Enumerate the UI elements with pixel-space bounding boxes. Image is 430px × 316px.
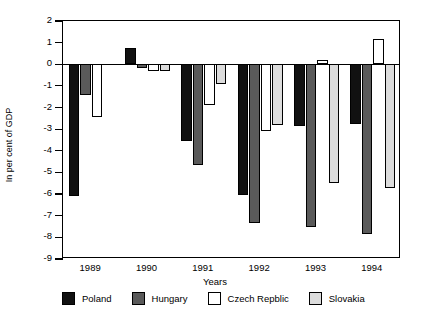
bar-poland-1993 (294, 64, 305, 126)
y-axis-tick (55, 107, 63, 108)
y-axis-tick-label: -7 (26, 210, 52, 220)
bar-hungary-1990 (137, 64, 148, 67)
y-axis-tick-label: -8 (26, 231, 52, 241)
legend-item-hungary: Hungary (132, 292, 188, 305)
bar-slovakia-1994 (385, 64, 396, 187)
y-axis-tick-label: 2 (26, 15, 52, 25)
bar-hungary-1992 (249, 64, 260, 223)
x-axis-tick-label: 1994 (349, 262, 395, 273)
legend-swatch-slovakia-icon (309, 292, 322, 305)
y-axis-tick-label: 1 (26, 37, 52, 47)
y-axis-tick (55, 150, 63, 151)
y-axis-tick-label: -5 (26, 166, 52, 176)
y-axis-tick (55, 237, 63, 238)
legend-label: Slovakia (329, 293, 365, 304)
bar-hungary-1991 (193, 64, 204, 165)
legend-label: Hungary (152, 293, 188, 304)
y-axis-tick (55, 42, 63, 43)
legend-item-czech: Czech Repblic (208, 292, 289, 305)
bar-hungary-1989 (80, 64, 91, 94)
y-axis-tick (55, 172, 63, 173)
bar-czech-1991 (204, 64, 215, 105)
bar-slovakia-1992 (272, 64, 283, 125)
legend-swatch-poland-icon (62, 292, 75, 305)
bar-slovakia-1993 (329, 64, 340, 183)
y-axis-tick-label: -4 (26, 145, 52, 155)
bar-czech-1989 (92, 64, 103, 117)
bar-poland-1990 (125, 48, 136, 64)
y-axis-tick-label: -9 (26, 253, 52, 263)
bar-poland-1989 (69, 64, 80, 196)
y-axis-tick (55, 20, 63, 21)
bar-hungary-1993 (306, 64, 317, 226)
y-axis-tick-label: 0 (26, 58, 52, 68)
x-axis-tick-label: 1992 (236, 262, 282, 273)
legend-label: Poland (82, 293, 112, 304)
y-axis-tick (55, 64, 63, 65)
x-axis-tick-label: 1989 (67, 262, 113, 273)
y-axis-tick-label: -6 (26, 188, 52, 198)
y-axis-title: In per cent of GDP (2, 60, 16, 230)
chart-legend: PolandHungaryCzech RepblicSlovakia (62, 288, 422, 308)
legend-item-slovakia: Slovakia (309, 292, 365, 305)
bar-czech-1990 (148, 64, 159, 70)
x-axis-tick-label: 1990 (124, 262, 170, 273)
legend-item-poland: Poland (62, 292, 112, 305)
y-axis-title-text: In per cent of GDP (4, 108, 14, 183)
y-axis-tick-label: -3 (26, 123, 52, 133)
y-axis-tick (55, 129, 63, 130)
x-axis-tick-label: 1991 (180, 262, 226, 273)
bar-chart: In per cent of GDP 210-1-2-3-4-5-6-7-8-9… (0, 0, 430, 316)
x-axis-tick-label: 1993 (293, 262, 339, 273)
y-axis-tick (55, 215, 63, 216)
bar-poland-1992 (238, 64, 249, 195)
bar-czech-1994 (373, 39, 384, 64)
y-axis-tick-label: -1 (26, 80, 52, 90)
y-axis-tick-label: -2 (26, 102, 52, 112)
legend-label: Czech Repblic (228, 293, 289, 304)
y-axis-tick (55, 258, 63, 259)
legend-swatch-czech-icon (208, 292, 221, 305)
y-axis-tick (55, 85, 63, 86)
bar-hungary-1994 (362, 64, 373, 234)
zero-baseline (63, 64, 399, 65)
plot-area (62, 20, 400, 258)
bar-poland-1994 (350, 64, 361, 124)
bar-czech-1993 (317, 60, 328, 64)
x-axis-title: Years (0, 276, 430, 287)
y-axis-tick (55, 193, 63, 194)
bar-czech-1992 (261, 64, 272, 131)
bar-poland-1991 (181, 64, 192, 141)
bar-slovakia-1990 (160, 64, 171, 70)
legend-swatch-hungary-icon (132, 292, 145, 305)
bar-slovakia-1991 (216, 64, 227, 83)
